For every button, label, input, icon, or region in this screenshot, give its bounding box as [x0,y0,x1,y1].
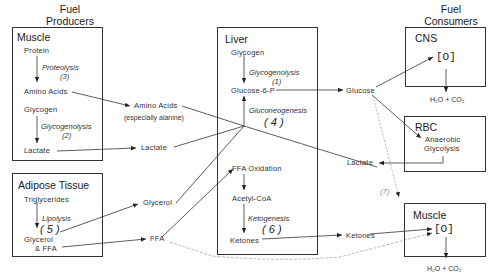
mid-ffa-label: FFA [150,235,164,243]
mid-lactate-label: Lactate [141,144,167,152]
protein-label: Protein [24,47,49,55]
proteolysis-label: Proteolysis [42,64,79,72]
pathway-7-number: (7) [380,188,389,196]
mid-ketones-label: Ketones [346,232,375,240]
mid-amino-acids-label: Amino Acids [134,102,177,110]
liver-glycogenolysis-number: (1) [272,78,281,86]
rbc-lactate-label: Lactate [347,159,373,167]
gluconeogenesis-number: ( 4 ) [264,117,284,128]
header-line: Fuel [40,4,100,15]
muscle-glycogen-label: Glycogen [24,106,57,114]
glucose-6-p-label: Glucose-6-P [231,87,275,95]
muscle-glycogenolysis-label: Glycogenolysis [41,123,91,131]
muscle-producer-title: Muscle [17,32,50,43]
muscle-products-label: H₂O + CO₂ [427,265,461,272]
cns-oxidation-label: [O] [436,52,456,63]
liver-title: Liver [225,34,248,45]
mid-glycerol-label: Glycerol [143,199,172,207]
ketogenesis-label: Ketogenesis [248,215,289,223]
ketogenesis-number: ( 6 ) [262,224,282,235]
fuel-metabolism-diagram: Fuel Producers Fuel Consumers Muscle Pro… [0,0,493,280]
glycolysis-label: Glycolysis [424,145,460,153]
liver-glycogen-label: Glycogen [231,49,264,57]
liver-glycogenolysis-label: Glycogenolysis [249,69,299,77]
muscle-glycogenolysis-number: (2) [62,132,71,140]
header-line: Fuel [416,4,486,15]
triglycerides-label: Triglycerides [24,196,69,204]
header-line: Consumers [416,16,486,27]
header-line: Producers [40,16,100,27]
header-fuel-producers: Fuel Producers [40,4,100,26]
header-fuel-consumers: Fuel Consumers [416,4,486,26]
gluconeogenesis-label: Gluconeogenesis [249,107,307,115]
rbc-title: RBC [415,122,437,133]
acetyl-coa-label: Acetyl-CoA [232,195,272,203]
cns-title: CNS [415,33,437,44]
lipolysis-number: ( 5 ) [40,224,60,235]
lipolysis-label: Lipolysis [42,215,71,223]
proteolysis-number: (3) [60,73,69,81]
anaerobic-label: Anaerobic [425,136,461,144]
ffa-oxidation-label: FFA Oxidation [232,165,282,173]
amino-acids-label: Amino Acids [24,88,67,96]
muscle-lactate-label: Lactate [24,147,50,155]
cns-products-label: H₂O + CO₂ [430,96,464,103]
adipose-title: Adipose Tissue [18,180,89,191]
adipose-glycerol-label: Glycerol [24,236,53,244]
glucose-label: Glucose [346,87,375,95]
liver-ketones-label: Ketones [230,237,259,245]
mid-amino-note: (especially alanine) [124,114,184,121]
adipose-ffa-label: & FFA [35,245,57,253]
muscle-oxidation-label: [O] [434,224,454,235]
muscle-consumer-title: Muscle [413,210,446,221]
